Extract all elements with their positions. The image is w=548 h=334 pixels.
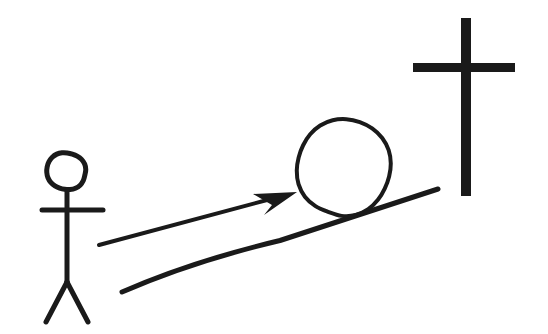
drawing-canvas: Stick figure pushing a ball up a slope t… [0, 0, 548, 334]
scene-svg [0, 0, 548, 334]
cross-vertical-bar-icon [461, 18, 471, 196]
cross-horizontal-bar-icon [413, 63, 515, 72]
